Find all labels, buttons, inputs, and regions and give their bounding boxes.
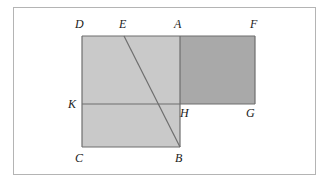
- dark-region-AFGH: [180, 36, 255, 104]
- shaded-regions-group: [82, 36, 255, 147]
- vertex-label-C: C: [75, 152, 83, 164]
- vertex-label-E: E: [119, 18, 126, 30]
- vertex-label-B: B: [175, 152, 182, 164]
- vertex-label-A: A: [174, 18, 181, 30]
- vertex-label-H: H: [180, 107, 189, 119]
- figure-canvas: [0, 0, 331, 184]
- vertex-label-D: D: [75, 18, 84, 30]
- geometry-figure: DEAFKHGCB: [0, 0, 331, 184]
- vertex-label-G: G: [246, 107, 255, 119]
- light-region-DABC: [82, 36, 180, 147]
- vertex-label-F: F: [250, 18, 257, 30]
- vertex-label-K: K: [68, 98, 76, 110]
